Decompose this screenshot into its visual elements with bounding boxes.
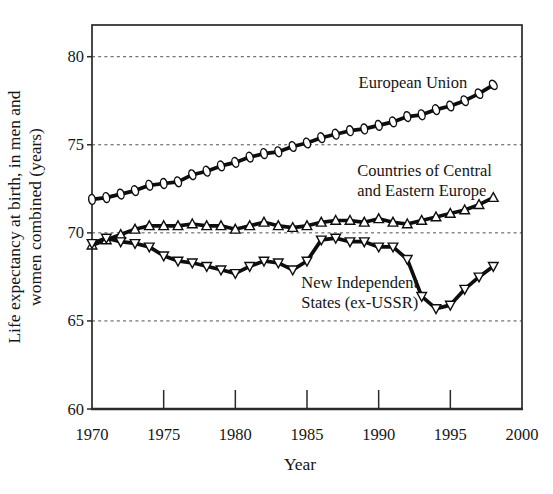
y-tick-label-75: 75 bbox=[68, 135, 85, 154]
series-marker-european-union bbox=[216, 160, 225, 171]
series-marker-european-union bbox=[88, 194, 96, 205]
series-marker-european-union bbox=[360, 123, 368, 134]
series-marker-european-union bbox=[331, 129, 340, 140]
y-axis-title-line-1: Life expectancy at birth, in men and bbox=[4, 90, 24, 343]
series-marker-european-union bbox=[288, 141, 297, 152]
series-marker-european-union bbox=[173, 176, 182, 187]
series-marker-european-union bbox=[274, 146, 283, 157]
series-label-line: Countries of Central bbox=[357, 161, 492, 180]
series-marker-european-union bbox=[130, 185, 139, 196]
series-marker-european-union bbox=[346, 125, 354, 136]
x-tick-label-1970: 1970 bbox=[76, 425, 109, 444]
x-tick-label-2000: 2000 bbox=[506, 425, 539, 444]
series-marker-european-union bbox=[317, 132, 326, 143]
series-marker-european-union bbox=[102, 192, 110, 203]
x-tick-label-1995: 1995 bbox=[434, 425, 467, 444]
series-marker-european-union bbox=[187, 169, 197, 181]
series-marker-european-union bbox=[145, 180, 154, 191]
life-expectancy-chart: 19701975198019851990199520006065707580Eu… bbox=[0, 0, 553, 494]
series-marker-new-independent-states-ex-ussr bbox=[288, 266, 298, 275]
series-marker-european-union bbox=[403, 111, 412, 122]
series-marker-countries-of-central-and-eastern-europe bbox=[489, 193, 499, 202]
series-label-line: and Eastern Europe bbox=[357, 181, 486, 200]
y-tick-label-80: 80 bbox=[68, 47, 85, 66]
x-tick-label-1990: 1990 bbox=[362, 425, 395, 444]
series-marker-european-union bbox=[231, 157, 240, 168]
series-marker-european-union bbox=[116, 188, 125, 199]
x-tick-label-1980: 1980 bbox=[219, 425, 252, 444]
series-marker-european-union bbox=[160, 178, 168, 189]
series-marker-european-union bbox=[446, 100, 455, 111]
series-marker-european-union bbox=[374, 120, 383, 131]
x-tick-label-1975: 1975 bbox=[147, 425, 180, 444]
x-tick-label-1985: 1985 bbox=[291, 425, 324, 444]
series-label-new-independent-states-ex-ussr: New IndependentStates (ex-USSR) bbox=[301, 273, 418, 312]
y-tick-label-70: 70 bbox=[68, 223, 85, 242]
series-label-line: European Union bbox=[359, 73, 468, 92]
series-marker-european-union bbox=[245, 151, 254, 162]
series-label-line: New Independent bbox=[301, 273, 418, 292]
series-marker-european-union bbox=[460, 95, 470, 107]
y-axis-title-line-2: women combined (years) bbox=[25, 128, 45, 306]
series-marker-european-union bbox=[302, 137, 311, 148]
series-label-countries-of-central-and-eastern-europe: Countries of Centraland Eastern Europe bbox=[357, 161, 492, 200]
x-axis-title: Year bbox=[284, 454, 316, 474]
series-marker-european-union bbox=[260, 148, 268, 159]
series-marker-european-union bbox=[417, 109, 426, 120]
series-marker-european-union bbox=[202, 165, 211, 176]
y-tick-label-65: 65 bbox=[68, 311, 85, 330]
series-label-european-union: European Union bbox=[359, 73, 468, 92]
chart-canvas: 19701975198019851990199520006065707580Eu… bbox=[0, 0, 553, 494]
y-tick-label-60: 60 bbox=[68, 400, 85, 419]
series-marker-european-union bbox=[388, 116, 397, 127]
series-marker-european-union bbox=[431, 104, 440, 115]
series-label-line: States (ex-USSR) bbox=[301, 293, 418, 312]
